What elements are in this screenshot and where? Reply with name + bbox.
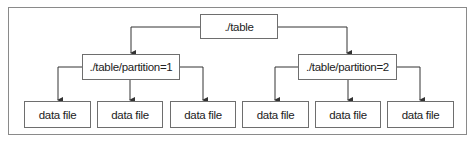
data-file-node: data file — [170, 101, 236, 128]
data-file-node: data file — [315, 101, 381, 128]
partition-node-1: ./table/partition=1 — [82, 54, 180, 80]
edge-root-p1 — [131, 27, 200, 53]
data-file-node: data file — [24, 101, 91, 128]
data-file-node: data file — [387, 101, 454, 128]
root-node: ./table — [200, 14, 278, 39]
edge-root-p2 — [278, 27, 347, 53]
data-file-node: data file — [97, 101, 163, 128]
data-file-node: data file — [242, 101, 309, 128]
partition-node-2: ./table/partition=2 — [298, 54, 397, 80]
